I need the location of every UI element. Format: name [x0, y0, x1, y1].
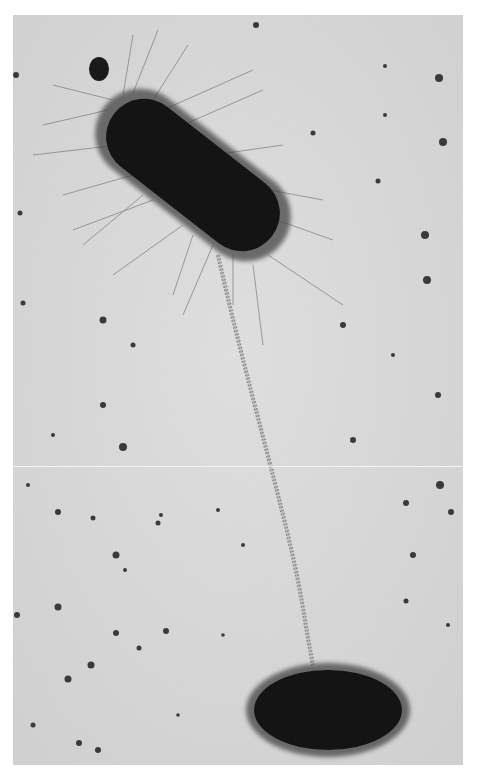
- micrograph-image: [13, 15, 463, 765]
- image-seam: [13, 466, 463, 467]
- micrograph-frame: [13, 15, 463, 765]
- small-particle: [89, 57, 109, 81]
- recipient-cell: [254, 670, 402, 750]
